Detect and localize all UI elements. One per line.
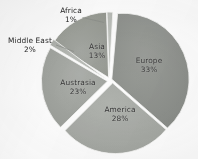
pie-label-europe-name: Europe: [126, 56, 172, 65]
pie-label-asia: Asia 13%: [78, 42, 116, 60]
pie-label-africa-pct: 1%: [48, 15, 94, 24]
pie-label-middle-east: Middle East 2%: [2, 36, 58, 54]
pie-chart-figure: Africa 1% Middle East 2% Asia 13% Europe…: [0, 0, 198, 159]
pie-label-america-pct: 28%: [96, 114, 144, 123]
pie-label-austrasia-pct: 23%: [52, 87, 104, 96]
pie-label-asia-name: Asia: [78, 42, 116, 51]
pie-label-austrasia-name: Austrasia: [52, 78, 104, 87]
pie-label-austrasia: Austrasia 23%: [52, 78, 104, 96]
pie-label-africa-name: Africa: [48, 6, 94, 15]
pie-label-america: America 28%: [96, 105, 144, 123]
pie-label-america-name: America: [96, 105, 144, 114]
pie-label-middle-east-pct: 2%: [2, 45, 58, 54]
pie-label-africa: Africa 1%: [48, 6, 94, 24]
pie-label-europe-pct: 33%: [126, 65, 172, 74]
pie-label-europe: Europe 33%: [126, 56, 172, 74]
pie-label-middle-east-name: Middle East: [2, 36, 58, 45]
pie-label-asia-pct: 13%: [78, 51, 116, 60]
